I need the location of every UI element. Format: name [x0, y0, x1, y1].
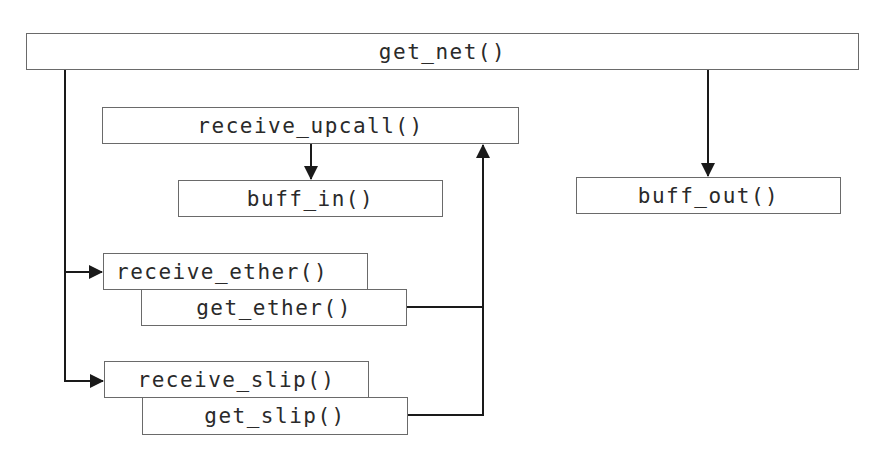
node-receive-ether[interactable]: receive_ether() — [103, 253, 368, 290]
node-get-net[interactable]: get_net() — [26, 33, 859, 70]
edge-get-net-to-receivers — [64, 70, 103, 381]
node-label: buff_out() — [638, 184, 779, 208]
node-label: get_net() — [379, 40, 506, 64]
node-receive-slip[interactable]: receive_slip() — [104, 361, 369, 398]
node-label: get_slip() — [204, 404, 345, 428]
node-label: receive_upcall() — [197, 114, 423, 138]
node-label: buff_in() — [247, 187, 374, 211]
call-graph-diagram: get_net() receive_upcall() buff_in() buf… — [0, 0, 877, 451]
node-buff-in[interactable]: buff_in() — [178, 180, 443, 217]
node-receive-upcall[interactable]: receive_upcall() — [102, 107, 519, 144]
node-get-slip[interactable]: get_slip() — [142, 397, 408, 435]
node-buff-out[interactable]: buff_out() — [576, 177, 841, 214]
node-get-ether[interactable]: get_ether() — [141, 289, 407, 326]
node-label: get_ether() — [196, 296, 352, 320]
node-label: receive_slip() — [137, 368, 335, 392]
node-label: receive_ether() — [116, 260, 328, 284]
